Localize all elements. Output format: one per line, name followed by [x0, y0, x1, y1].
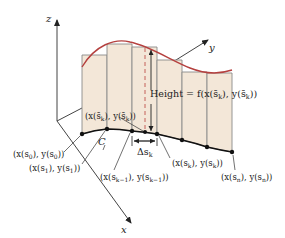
point-mid — [180, 138, 184, 142]
delta-s-label: Δsk — [137, 146, 153, 159]
point-sample — [143, 130, 147, 134]
curve-C-label: C — [98, 136, 106, 147]
x-axis-label: x — [121, 224, 127, 235]
point-sk-minus-1-label: (x(sk−1), y(sk−1)) — [100, 172, 169, 183]
z-axis-label: z — [45, 13, 52, 24]
point-s0 — [80, 132, 84, 136]
point-s0-label: (x(s0), y(s0)) — [13, 149, 64, 160]
rect-1 — [82, 55, 107, 134]
rect-5 — [182, 72, 207, 147]
line-integral-curtain-figure: z y x Height = f(x(s̄k), y(s̄k)) (x(s̄k)… — [0, 0, 285, 238]
point-s1-label: (x(s1), y(s1)) — [29, 163, 80, 174]
point-sn-label: (x(sn), y(sn)) — [221, 172, 272, 183]
y-axis-label: y — [208, 42, 215, 53]
point-s1 — [105, 127, 109, 131]
point-mid2 — [205, 145, 209, 149]
y-axis — [57, 108, 82, 121]
point-sk-minus-1 — [130, 129, 134, 133]
diagram-canvas: z y x Height = f(x(s̄k), y(s̄k)) (x(s̄k)… — [0, 0, 285, 238]
point-sk — [155, 132, 159, 136]
delta-s-bracket — [132, 136, 157, 146]
point-sn — [230, 150, 234, 154]
rect-4 — [157, 60, 182, 140]
rect-6 — [207, 73, 232, 152]
point-sk-label: (x(sk), y(sk)) — [172, 158, 223, 169]
